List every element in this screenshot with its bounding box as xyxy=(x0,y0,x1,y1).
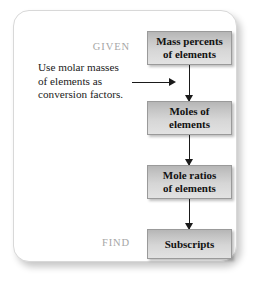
flow-step-3-line-2: of elements xyxy=(163,182,216,195)
flow-step-4-line-1: Subscripts xyxy=(165,238,215,251)
flow-arrow-2-icon xyxy=(189,135,191,165)
find-label: FIND xyxy=(64,237,130,248)
flow-step-1-line-1: Mass percents xyxy=(156,35,223,48)
given-label: GIVEN xyxy=(54,41,130,52)
note-to-flow-arrow-icon xyxy=(132,82,169,84)
conversion-note-line-2: of elements as xyxy=(38,75,132,89)
conversion-note-line-1: Use molar masses xyxy=(38,61,132,75)
figure-panel: GIVEN Use molar masses of elements as co… xyxy=(13,10,237,262)
flow-step-mole-ratios: Mole ratios of elements xyxy=(147,165,232,199)
flow-arrow-1-icon xyxy=(189,65,191,101)
flowchart-figure: GIVEN Use molar masses of elements as co… xyxy=(0,0,255,281)
conversion-note-line-3: conversion factors. xyxy=(38,88,132,102)
conversion-note: Use molar masses of elements as conversi… xyxy=(38,61,132,102)
flow-arrow-3-icon xyxy=(189,199,191,229)
flow-step-moles: Moles of elements xyxy=(147,101,232,135)
flow-step-2-line-2: elements xyxy=(169,118,210,131)
flow-step-mass-percents: Mass percents of elements xyxy=(147,31,232,65)
flow-step-1-line-2: of elements xyxy=(156,48,223,61)
flow-step-2-line-1: Moles of xyxy=(169,105,210,118)
flow-step-3-line-1: Mole ratios xyxy=(163,169,216,182)
flow-step-subscripts: Subscripts xyxy=(147,229,232,259)
